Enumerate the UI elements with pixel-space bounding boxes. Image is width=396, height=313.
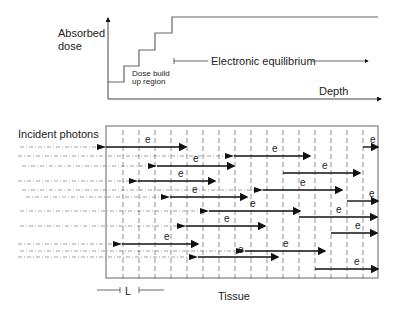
dose-depth-graph: Absorbed dose Depth Dose build up region… bbox=[58, 17, 381, 99]
electron-label: e bbox=[370, 134, 376, 145]
photon-arrowhead-icon bbox=[200, 208, 209, 214]
photon-arrowhead-icon bbox=[189, 254, 198, 260]
tissue-box bbox=[106, 126, 378, 278]
photon-arrowhead-icon bbox=[254, 187, 263, 193]
electron-tracks: eeeeeeeeeeeeeeeee bbox=[106, 134, 378, 269]
equilibrium-label: Electronic equilibrium bbox=[211, 55, 316, 67]
electron-label: e bbox=[336, 204, 342, 215]
photon-arrowhead-icon bbox=[177, 223, 186, 229]
electron-label: e bbox=[369, 188, 375, 199]
photon-arrowhead-icon bbox=[148, 163, 157, 169]
electron-label: e bbox=[354, 256, 360, 267]
electron-label: e bbox=[322, 160, 328, 171]
photon-arrowhead-icon bbox=[97, 144, 106, 150]
buildup-label-2: up region bbox=[132, 77, 165, 86]
electron-label: e bbox=[192, 184, 198, 195]
electron-label: e bbox=[193, 153, 199, 164]
electron-label: e bbox=[283, 238, 289, 249]
electron-label: e bbox=[272, 143, 278, 154]
photon-arrowhead-icon bbox=[113, 241, 122, 247]
photon-tracks bbox=[18, 144, 263, 260]
x-axis-label: Depth bbox=[319, 85, 348, 97]
electron-label: e bbox=[224, 213, 230, 224]
spacing-label: L bbox=[125, 285, 131, 297]
electron-label: e bbox=[178, 168, 184, 179]
photon-arrowhead-icon bbox=[225, 153, 234, 159]
electron-label: e bbox=[164, 231, 170, 242]
photon-interaction-diagram: Incident photons eeeeeeeeeeeeeeeee L Tis… bbox=[18, 126, 378, 302]
electron-label: e bbox=[250, 198, 256, 209]
electron-label: e bbox=[355, 220, 361, 231]
photon-arrowhead-icon bbox=[161, 194, 170, 200]
y-axis-label-1: Absorbed bbox=[58, 27, 105, 39]
depth-grid bbox=[123, 130, 363, 282]
electron-label: e bbox=[238, 244, 244, 255]
dose-buildup-diagram: Absorbed dose Depth Dose build up region… bbox=[0, 0, 396, 313]
electron-label: e bbox=[300, 177, 306, 188]
tissue-label: Tissue bbox=[218, 290, 250, 302]
incident-photons-label: Incident photons bbox=[18, 128, 99, 140]
photon-arrowhead-icon bbox=[129, 178, 138, 184]
y-axis-label-2: dose bbox=[58, 40, 82, 52]
electron-label: e bbox=[145, 134, 151, 145]
